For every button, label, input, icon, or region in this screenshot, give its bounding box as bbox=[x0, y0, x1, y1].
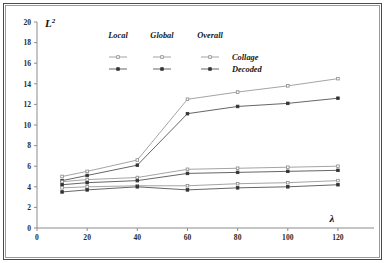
x-tick-label: 80 bbox=[234, 233, 242, 242]
series-point bbox=[86, 174, 89, 177]
series-point bbox=[86, 170, 89, 173]
legend-column-header-overall: Overall bbox=[197, 31, 223, 40]
x-tick-label: 120 bbox=[332, 233, 344, 242]
series-point bbox=[86, 181, 89, 184]
series-point bbox=[337, 97, 340, 100]
legend-swatch-marker bbox=[161, 56, 164, 59]
series-point bbox=[61, 183, 64, 186]
y-tick-label: 20 bbox=[23, 18, 31, 27]
legend-swatch-marker bbox=[161, 68, 164, 71]
series-point bbox=[136, 159, 139, 162]
series-point bbox=[236, 167, 239, 170]
x-tick-label: 40 bbox=[134, 233, 142, 242]
series-point bbox=[61, 175, 64, 178]
series-point bbox=[86, 178, 89, 181]
chart-plot: 02468101214161820020406080100120L2λ Loca… bbox=[0, 0, 385, 263]
legend-column-header-local: Local bbox=[107, 31, 128, 40]
series-point bbox=[136, 176, 139, 179]
legend-swatch-global-collage bbox=[153, 56, 171, 59]
x-tick-label: 20 bbox=[83, 233, 91, 242]
series-group bbox=[61, 77, 339, 193]
y-axis-title-exponent: 2 bbox=[51, 17, 56, 25]
axes-group: 02468101214161820020406080100120L2λ bbox=[23, 17, 374, 242]
series-point bbox=[186, 189, 189, 192]
series-point bbox=[236, 187, 239, 190]
legend-swatch-marker bbox=[209, 68, 212, 71]
series-point bbox=[236, 105, 239, 108]
series-point bbox=[186, 168, 189, 171]
series-overall-collage bbox=[61, 77, 339, 177]
series-point bbox=[186, 172, 189, 175]
series-point bbox=[86, 186, 89, 189]
series-point bbox=[186, 184, 189, 187]
series-point bbox=[136, 179, 139, 182]
legend-swatch-overall-collage bbox=[201, 56, 219, 59]
series-line bbox=[62, 185, 338, 192]
legend-swatch-global-decoded bbox=[153, 68, 171, 71]
series-point bbox=[337, 179, 340, 182]
legend-column-header-global: Global bbox=[150, 31, 174, 40]
series-point bbox=[236, 182, 239, 185]
series-line bbox=[62, 166, 338, 181]
series-line bbox=[62, 98, 338, 180]
series-point bbox=[337, 77, 340, 80]
series-point bbox=[286, 186, 289, 189]
x-tick-label: 0 bbox=[35, 233, 39, 242]
series-point bbox=[337, 169, 340, 172]
legend-row-label-decoded: Decoded bbox=[231, 65, 263, 74]
series-point bbox=[337, 165, 340, 168]
series-line bbox=[62, 79, 338, 177]
series-point bbox=[61, 191, 64, 194]
series-point bbox=[186, 112, 189, 115]
legend-swatch-overall-decoded bbox=[201, 68, 219, 71]
legend-swatch-local-decoded bbox=[109, 68, 127, 71]
series-local-collage bbox=[61, 179, 339, 189]
legend-swatch-marker bbox=[209, 56, 212, 59]
y-tick-label: 2 bbox=[27, 203, 31, 212]
series-point bbox=[136, 186, 139, 189]
y-tick-label: 6 bbox=[27, 162, 31, 171]
series-point bbox=[286, 85, 289, 88]
series-point bbox=[236, 171, 239, 174]
y-tick-label: 0 bbox=[27, 224, 31, 233]
series-point bbox=[286, 170, 289, 173]
legend-swatch-marker bbox=[117, 68, 120, 71]
legend-row-label-collage: Collage bbox=[232, 53, 259, 62]
series-point bbox=[286, 102, 289, 105]
legend-swatch-marker bbox=[117, 56, 120, 59]
x-tick-label: 100 bbox=[282, 233, 294, 242]
series-global-decoded bbox=[61, 169, 339, 186]
series-point bbox=[136, 164, 139, 167]
y-axis-title: L2 bbox=[44, 17, 56, 29]
y-tick-label: 14 bbox=[23, 80, 31, 89]
series-point bbox=[286, 181, 289, 184]
series-point bbox=[186, 98, 189, 101]
y-tick-label: 18 bbox=[23, 38, 31, 47]
legend-swatch-local-collage bbox=[109, 56, 127, 59]
series-point bbox=[337, 183, 340, 186]
figure-container: 02468101214161820020406080100120L2λ Loca… bbox=[0, 0, 385, 263]
x-tick-label: 60 bbox=[184, 233, 192, 242]
series-point bbox=[286, 166, 289, 169]
x-axis-title: λ bbox=[328, 212, 334, 224]
chart-svg: 02468101214161820020406080100120L2λ Loca… bbox=[0, 0, 385, 263]
y-tick-label: 10 bbox=[23, 121, 31, 130]
y-tick-label: 8 bbox=[27, 141, 31, 150]
y-tick-label: 4 bbox=[27, 183, 31, 192]
series-point bbox=[61, 187, 64, 190]
series-point bbox=[61, 180, 64, 183]
series-point bbox=[236, 91, 239, 94]
series-point bbox=[86, 189, 89, 192]
y-tick-label: 12 bbox=[23, 100, 31, 109]
y-tick-label: 16 bbox=[23, 59, 31, 68]
legend-group: LocalGlobalOverallCollageDecoded bbox=[107, 31, 262, 74]
